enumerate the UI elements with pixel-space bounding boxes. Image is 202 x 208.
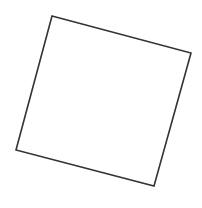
diagram-svg — [0, 0, 202, 208]
rotated-square — [16, 16, 191, 186]
diagram-canvas — [0, 0, 202, 208]
